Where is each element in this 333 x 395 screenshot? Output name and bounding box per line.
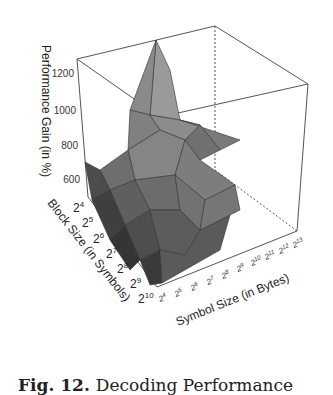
svg-text:29: 29 — [234, 261, 247, 274]
svg-text:211: 211 — [262, 249, 277, 263]
figure-caption-text: Decoding Performance — [96, 375, 293, 395]
y-tick: 210 — [138, 291, 154, 306]
z-axis-ticks: 1200 1000 800 600 — [52, 68, 81, 185]
svg-text:25: 25 — [172, 286, 185, 299]
y-tick: 24 — [73, 200, 85, 215]
figure-caption: Fig. 12.Decoding Performance — [18, 375, 293, 395]
z-axis-label: Performance Gain (in %) — [39, 45, 53, 177]
svg-text:210: 210 — [248, 254, 264, 268]
svg-text:212: 212 — [276, 242, 292, 256]
y-tick: 26 — [93, 231, 105, 246]
svg-text:28: 28 — [219, 268, 232, 281]
figure-number: Fig. 12. — [18, 375, 90, 395]
svg-text:27: 27 — [204, 274, 217, 287]
z-tick: 1200 — [52, 68, 75, 79]
x-axis-label: Symbol Size (in Bytes) — [174, 271, 291, 329]
y-tick: 25 — [82, 215, 94, 230]
z-tick: 600 — [63, 174, 80, 185]
z-tick: 800 — [61, 140, 78, 151]
y-tick: 29 — [130, 276, 142, 291]
y-tick: 27 — [106, 246, 118, 261]
svg-text:24: 24 — [156, 291, 169, 304]
svg-text:213: 213 — [290, 236, 306, 250]
svg-text:26: 26 — [188, 280, 201, 293]
surface-plot: 1200 1000 800 600 Performance Gain (in %… — [0, 0, 333, 395]
y-tick: 28 — [117, 261, 129, 276]
z-tick: 1000 — [54, 105, 77, 116]
